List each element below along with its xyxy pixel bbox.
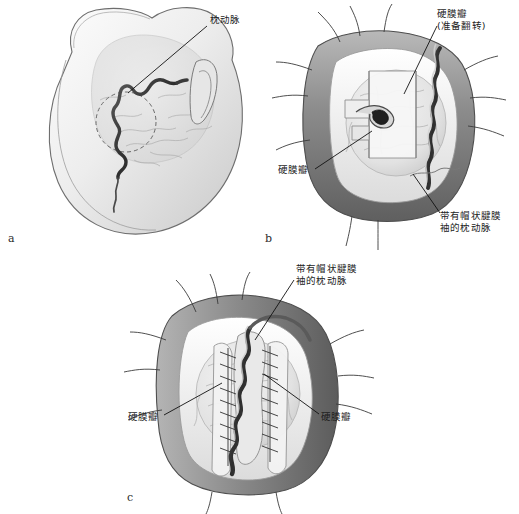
- panel-c-artwork: [124, 272, 374, 514]
- label-occipital-artery-a: 枕动脉: [210, 14, 241, 26]
- surgical-figure: 枕动脉 a 硬膜瓣 (准备翻转) 硬膜瓣 带有帽状腱膜 袖的枕动脉 b 带有帽状…: [0, 0, 519, 514]
- label-dural-flap-left-c: 硬膜瓣: [128, 411, 159, 423]
- illustration-canvas: [0, 0, 519, 514]
- panel-letter-a: a: [8, 233, 15, 244]
- panel-a-artwork: [49, 8, 242, 234]
- label-occipital-artery-cuff-c: 带有帽状腱膜 袖的枕动脉: [296, 263, 357, 286]
- panel-letter-c: c: [127, 492, 133, 503]
- label-dural-flap-to-be-reflected-b: 硬膜瓣 (准备翻转): [437, 8, 486, 31]
- label-dural-flap-right-c: 硬膜瓣: [321, 411, 352, 423]
- panel-letter-b: b: [265, 233, 272, 244]
- dural-leaf-left-lower-b: [352, 126, 369, 140]
- label-dural-flap-b: 硬膜瓣: [278, 164, 309, 176]
- label-occipital-artery-cuff-b: 带有帽状腱膜 袖的枕动脉: [440, 210, 501, 233]
- dural-flap-right-c: [268, 342, 288, 474]
